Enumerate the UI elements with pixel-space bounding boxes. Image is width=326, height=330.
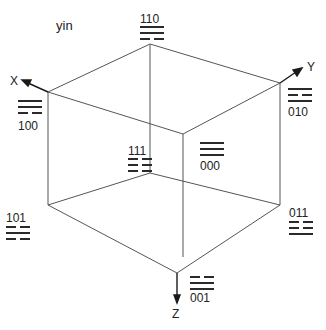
y-arrowhead-icon: [293, 68, 302, 76]
yin-line: [6, 226, 30, 228]
yin-line: [289, 221, 313, 223]
x-axis-arrow: [28, 83, 48, 92]
yang-line: [200, 148, 224, 150]
z-arrowhead-icon: [174, 295, 180, 303]
edge-001-011: [177, 205, 280, 273]
trigram-icon-110: [140, 26, 164, 44]
yang-line: [289, 233, 313, 235]
vertex-label-101: 101: [6, 212, 26, 224]
edge-000-010: [183, 83, 280, 134]
vertex-label-111: 111: [128, 145, 146, 157]
yin-line: [6, 238, 30, 240]
y-axis-label: Y: [307, 60, 315, 74]
yin-line: [140, 38, 164, 40]
yin-line: [128, 164, 152, 166]
vertex-label-000: 000: [200, 160, 220, 172]
yin-line: [288, 94, 312, 96]
yang-line: [18, 100, 42, 102]
vertex-label-010: 010: [288, 106, 308, 118]
yang-line: [190, 288, 214, 290]
yin-line: [190, 276, 214, 278]
trigram-icon-001: [190, 276, 214, 294]
yang-line: [190, 282, 214, 284]
yin-line: [128, 170, 152, 172]
yang-line: [140, 26, 164, 28]
vertex-label-011: 011: [289, 207, 308, 219]
yin-line: [128, 158, 152, 160]
x-axis-label: X: [10, 74, 18, 88]
vertex-label-100: 100: [18, 120, 38, 132]
edge-101-111: [48, 173, 150, 205]
trigram-icon-100: [18, 100, 42, 118]
edge-100-110: [48, 44, 150, 92]
yang-line: [288, 88, 312, 90]
x-arrowhead-icon: [22, 80, 31, 86]
trigram-icon-000: [200, 142, 224, 160]
trigram-icon-101: [6, 226, 30, 244]
trigram-icon-011: [289, 221, 313, 239]
yang-line: [6, 232, 30, 234]
yin-line: [18, 112, 42, 114]
yang-line: [18, 106, 42, 108]
yang-line: [200, 154, 224, 156]
yang-line: [288, 100, 312, 102]
edge-110-010: [150, 44, 280, 83]
yang-line: [140, 32, 164, 34]
edge-101-001: [48, 205, 177, 273]
diagram-title: yin: [56, 20, 73, 32]
edge-111-011: [150, 173, 280, 205]
z-axis-label: Z: [172, 307, 179, 321]
yin-line: [289, 227, 313, 229]
edge-100-000: [48, 92, 183, 134]
trigram-icon-010: [288, 88, 312, 106]
yang-line: [200, 142, 224, 144]
vertex-label-110: 110: [140, 13, 159, 25]
y-axis-arrow: [280, 72, 296, 83]
trigram-icon-111: [128, 158, 152, 176]
cube-diagram: [0, 0, 326, 330]
